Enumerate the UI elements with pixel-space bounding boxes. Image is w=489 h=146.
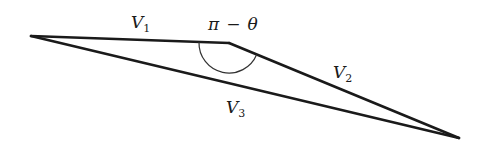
diagram-svg: V1 π−θ V2 V3: [0, 0, 489, 146]
label-v1: V1: [131, 12, 150, 35]
label-v2: V2: [333, 62, 352, 85]
label-v3: V3: [226, 97, 245, 120]
angle-arc: [199, 42, 257, 73]
triangle-diagram: V1 π−θ V2 V3: [0, 0, 489, 146]
label-angle: π−θ: [207, 14, 258, 34]
edge-v3: [31, 36, 459, 138]
